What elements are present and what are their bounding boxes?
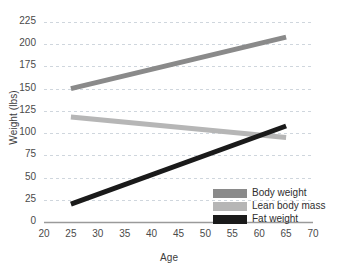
x-tick-label: 50: [192, 228, 218, 239]
y-tick-label: 0: [2, 215, 36, 226]
x-axis-title: Age: [0, 252, 338, 263]
x-tick-label: 60: [246, 228, 272, 239]
legend-label: Fat weight: [252, 213, 298, 225]
x-tick-label: 45: [166, 228, 192, 239]
legend-label: Body weight: [252, 187, 306, 199]
x-tick-label: 70: [300, 228, 326, 239]
line-chart: 0255075100125150175200225 20253035404550…: [0, 0, 338, 272]
x-tick-label: 30: [85, 228, 111, 239]
x-tick-label: 55: [219, 228, 245, 239]
series-line-lean-body-mass: [71, 117, 286, 137]
gridlines-group: [44, 23, 313, 201]
x-tick-label: 20: [31, 228, 57, 239]
x-tick-label: 35: [112, 228, 138, 239]
y-tick-label: 25: [2, 193, 36, 204]
x-tick-label: 25: [58, 228, 84, 239]
data-series-group: [71, 37, 286, 204]
y-tick-label: 50: [2, 171, 36, 182]
legend-item: Lean body mass: [213, 200, 325, 212]
legend-swatch-icon: [213, 189, 247, 198]
y-tick-label: 225: [2, 15, 36, 26]
y-axis-title: Weight (lbs): [8, 78, 19, 158]
legend-label: Lean body mass: [252, 200, 325, 212]
legend-swatch-icon: [213, 215, 247, 224]
y-tick-label: 200: [2, 37, 36, 48]
chart-legend: Body weightLean body massFat weight: [213, 187, 325, 225]
legend-swatch-icon: [213, 202, 247, 211]
legend-item: Fat weight: [213, 213, 325, 225]
legend-item: Body weight: [213, 187, 325, 199]
x-tick-label: 40: [139, 228, 165, 239]
x-tick-label: 65: [273, 228, 299, 239]
y-tick-label: 175: [2, 59, 36, 70]
